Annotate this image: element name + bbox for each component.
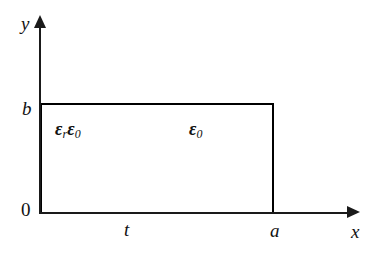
air-permittivity-label: ε0 xyxy=(189,120,203,141)
dielectric-cross-section-figure: y x b 0 t a εrε0 ε0 xyxy=(0,0,385,257)
x-axis-label: x xyxy=(351,222,359,241)
epsilon-subscript-zero: 0 xyxy=(75,127,81,141)
tick-label-a: a xyxy=(270,221,280,240)
y-axis-label: y xyxy=(21,14,29,33)
dielectric-permittivity-label: εrε0 xyxy=(55,120,81,141)
tick-label-origin: 0 xyxy=(21,200,31,219)
x-axis-line xyxy=(40,212,352,214)
epsilon-glyph: ε xyxy=(55,119,62,139)
y-axis-line xyxy=(39,24,41,214)
epsilon-subscript-zero: 0 xyxy=(197,127,203,141)
y-axis-arrow-icon xyxy=(34,15,46,28)
epsilon-glyph-2: ε xyxy=(67,119,74,139)
tick-label-t: t xyxy=(124,220,129,239)
x-axis-arrow-icon xyxy=(347,206,360,218)
tick-label-b: b xyxy=(22,99,32,118)
epsilon-glyph: ε xyxy=(189,119,196,139)
